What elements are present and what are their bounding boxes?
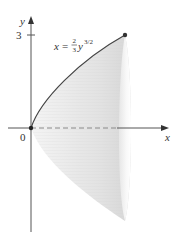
solid-of-revolution-diagram: y 3 0 x x = 2 3 y 3/2 <box>0 0 186 239</box>
x-axis-label: x <box>164 131 170 143</box>
curve-equation-label: x = 2 3 y 3/2 <box>53 37 93 54</box>
svg-text:2: 2 <box>73 37 77 45</box>
y-tick-label-3: 3 <box>16 29 22 41</box>
svg-text:=: = <box>62 40 68 52</box>
y-axis-arrow-icon <box>28 16 34 24</box>
y-axis-label: y <box>19 15 25 27</box>
svg-text:3: 3 <box>73 46 77 54</box>
curve-endpoint-dot <box>123 33 127 37</box>
svg-text:x: x <box>53 40 59 52</box>
origin-label: 0 <box>20 131 26 143</box>
origin-dot <box>29 126 33 130</box>
svg-text:3/2: 3/2 <box>84 38 93 46</box>
svg-text:y: y <box>77 40 83 52</box>
